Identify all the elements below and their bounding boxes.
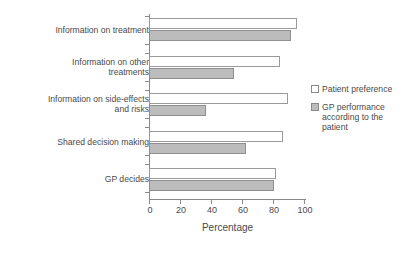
bar-patient-preference-shared-decision-making [149, 131, 283, 142]
y-tick-3 [145, 81, 149, 82]
legend-label-patient-preference: Patient preference [322, 84, 403, 94]
legend-label-gp-performance: GP performance according to the patient [322, 102, 403, 132]
x-tick-label-20: 20 [169, 205, 193, 215]
x-tick-label-60: 60 [231, 205, 255, 215]
x-tick-60 [242, 200, 243, 204]
legend-swatch-icon-gp-performance [311, 103, 319, 111]
x-tick-80 [273, 200, 274, 204]
category-label-information-on-treatment: Information on treatment [9, 25, 149, 35]
bar-gp-performance-shared-decision-making [149, 143, 246, 154]
x-tick-label-80: 80 [262, 205, 286, 215]
bar-gp-performance-gp-decides [149, 180, 274, 191]
x-tick-0 [149, 200, 150, 204]
legend-swatch-icon-patient-preference [311, 85, 319, 93]
y-tick-1 [145, 44, 149, 45]
bar-patient-preference-information-on-side-effects-and-risks [149, 93, 288, 104]
x-tick-40 [211, 200, 212, 204]
legend-entry-gp-performance: GP performance according to the patient [311, 102, 403, 132]
bar-gp-performance-information-on-other-treatments [149, 68, 234, 79]
bar-patient-preference-information-on-other-treatments [149, 56, 280, 67]
y-tick-6 [145, 127, 149, 128]
x-tick-100 [304, 200, 305, 204]
x-tick-label-100: 100 [293, 205, 317, 215]
bar-patient-preference-gp-decides [149, 168, 276, 179]
y-tick-9 [145, 192, 149, 193]
x-tick-20 [180, 200, 181, 204]
x-axis-title: Percentage [150, 222, 305, 233]
x-tick-label-0: 0 [138, 205, 162, 215]
bar-chart: 0 20 40 60 80 100 Information on treatme… [0, 0, 403, 253]
category-label-information-on-other-treatments: Information on other treatments [9, 57, 149, 77]
bar-patient-preference-information-on-treatment [149, 18, 297, 29]
bar-gp-performance-information-on-side-effects-and-risks [149, 105, 206, 116]
y-tick-4 [145, 90, 149, 91]
y-tick-0 [145, 16, 149, 17]
category-label-gp-decides: GP decides [9, 174, 149, 184]
y-tick-2 [145, 53, 149, 54]
y-tick-8 [145, 164, 149, 165]
category-label-information-on-side-effects-and-risks: Information on side-effects and risks [9, 94, 149, 114]
category-label-shared-decision-making: Shared decision making [9, 137, 149, 147]
chart-legend: Patient preference GP performance accord… [311, 84, 403, 140]
bar-gp-performance-information-on-treatment [149, 30, 291, 41]
x-axis-line [149, 199, 306, 200]
y-tick-5 [145, 118, 149, 119]
legend-entry-patient-preference: Patient preference [311, 84, 403, 94]
y-tick-7 [145, 155, 149, 156]
x-tick-label-40: 40 [200, 205, 224, 215]
